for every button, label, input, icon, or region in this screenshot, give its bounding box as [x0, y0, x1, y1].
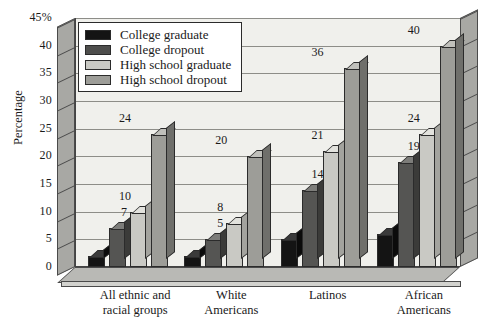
y-tick-label: 20 — [40, 149, 52, 164]
wall-tick — [58, 19, 74, 28]
y-tick-label: 0 — [46, 259, 52, 274]
bar-face — [420, 135, 435, 266]
chart-legend: College graduate College dropout High sc… — [78, 22, 242, 92]
bar — [130, 212, 147, 267]
bar-value-label: 5 — [217, 216, 223, 231]
bar-face — [110, 229, 125, 266]
bar — [247, 156, 264, 267]
y-tick-label: 40 — [40, 38, 52, 53]
wall-tick — [58, 102, 74, 111]
y-tick-label: 5 — [46, 232, 52, 247]
x-tick-label-line: Americans — [171, 303, 291, 318]
x-tick-label: AfricanAmericans — [364, 288, 484, 318]
bar — [302, 190, 319, 267]
wall-tick — [58, 185, 74, 194]
bar-face — [152, 135, 167, 266]
wall-tick — [58, 75, 74, 84]
legend-label: College dropout — [120, 42, 204, 57]
bar-value-label: 10 — [119, 189, 131, 204]
bar — [184, 256, 201, 267]
wall-tick — [461, 11, 477, 20]
bar-face — [441, 47, 456, 266]
bar-face — [303, 191, 318, 266]
bar-value-label: 24 — [408, 111, 420, 126]
bar — [281, 239, 298, 267]
bar-value-label: 21 — [311, 128, 323, 143]
y-tick-label: 45% — [29, 10, 52, 25]
bar-value-label: 40 — [408, 23, 420, 38]
y-tick-label: 25 — [40, 121, 52, 136]
y-axis-ticks: 051015202530354045% — [0, 18, 52, 267]
bar-face — [378, 235, 393, 266]
bar-face — [399, 163, 414, 266]
legend-swatch-college-dropout — [85, 45, 111, 55]
wall-tick — [58, 158, 74, 167]
legend-swatch-college-graduate — [85, 30, 111, 40]
wall-tick — [58, 130, 74, 139]
bar-value-label: 36 — [311, 45, 323, 60]
bar-face — [89, 257, 104, 266]
legend-item: College dropout — [85, 42, 231, 57]
x-tick-label-line: Americans — [364, 303, 484, 318]
chart-floor-front — [61, 281, 461, 287]
legend-item: High school graduate — [85, 57, 231, 72]
y-tick-label: 30 — [40, 93, 52, 108]
bar-value-label: 24 — [119, 111, 131, 126]
bar — [151, 134, 168, 267]
y-tick-label: 10 — [40, 204, 52, 219]
chart-left-wall — [57, 18, 75, 276]
bar-face — [282, 240, 297, 266]
bar-value-label: 8 — [217, 200, 223, 215]
bar-face — [324, 152, 339, 266]
bar — [88, 256, 105, 267]
bar — [323, 151, 340, 267]
legend-swatch-high-school-dropout — [85, 75, 111, 85]
bar — [205, 239, 222, 267]
bar-face — [227, 224, 242, 266]
bar-face — [131, 213, 146, 266]
bar-side — [455, 33, 464, 259]
bar — [226, 223, 243, 267]
y-tick-label: 15 — [40, 176, 52, 191]
wall-tick — [58, 47, 74, 56]
x-axis-labels: All ethnic andracial groupsWhiteAmerican… — [55, 288, 475, 321]
bar — [419, 134, 436, 267]
wall-tick — [58, 241, 74, 250]
bar — [109, 228, 126, 267]
legend-item: High school dropout — [85, 72, 231, 87]
legend-label: High school dropout — [120, 72, 227, 87]
bar-chart: 051015202530354045% Percentage 271024258… — [0, 0, 490, 321]
bar-face — [185, 257, 200, 266]
bar — [344, 68, 361, 267]
legend-label: College graduate — [120, 27, 208, 42]
bar-value-label: 20 — [215, 133, 227, 148]
bar-value-label: 7 — [121, 205, 127, 220]
bar-face — [345, 69, 360, 266]
bar-group: 5142136 — [268, 18, 364, 267]
legend-label: High school graduate — [120, 57, 231, 72]
bar — [398, 162, 415, 267]
y-axis-title: Percentage — [11, 48, 26, 188]
bar-group: 6192440 — [364, 18, 460, 267]
bar-face — [206, 240, 221, 266]
legend-swatch-high-school-graduate — [85, 60, 111, 70]
bar-face — [248, 157, 263, 266]
wall-tick — [58, 213, 74, 222]
y-tick-label: 35 — [40, 66, 52, 81]
x-tick-label-line: African — [364, 288, 484, 303]
bar — [377, 234, 394, 267]
legend-item: College graduate — [85, 27, 231, 42]
bar — [440, 46, 457, 267]
